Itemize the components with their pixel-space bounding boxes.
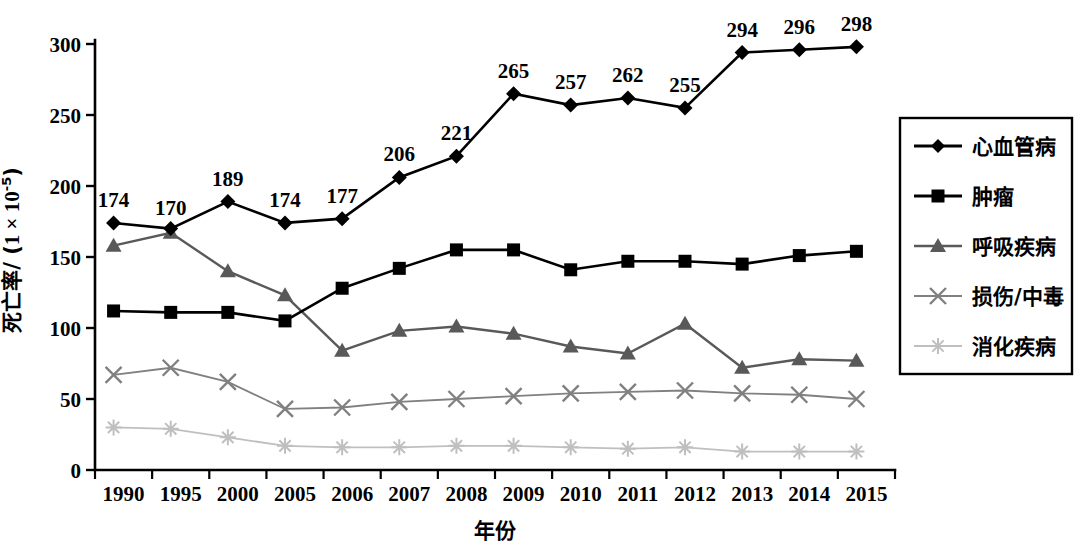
data-value-label: 296 bbox=[784, 15, 816, 39]
series-5 bbox=[106, 419, 865, 459]
data-point-marker bbox=[734, 444, 750, 460]
y-axis-title: 死亡率/ (1 × 10-5) bbox=[0, 150, 25, 350]
x-axis-tick-label: 2015 bbox=[845, 482, 887, 506]
data-point-marker bbox=[849, 39, 864, 54]
series-2 bbox=[107, 243, 863, 327]
x-axis-tick-label: 2011 bbox=[617, 482, 658, 506]
data-point-marker bbox=[848, 444, 864, 460]
data-point-marker bbox=[791, 444, 807, 460]
data-point-marker bbox=[277, 438, 293, 454]
data-point-marker bbox=[277, 287, 293, 301]
x-axis-tick-label: 2009 bbox=[503, 482, 545, 506]
data-point-marker bbox=[391, 439, 407, 455]
y-axis-tick-label: 150 bbox=[50, 246, 82, 270]
series-1 bbox=[106, 39, 864, 236]
line-chart-canvas: 0501001502002503001990199520002005200620… bbox=[0, 0, 1082, 552]
chart-figure: 0501001502002503001990199520002005200620… bbox=[0, 0, 1082, 552]
x-axis-tick-label: 2010 bbox=[560, 482, 602, 506]
data-point-marker bbox=[563, 98, 578, 113]
data-point-marker bbox=[448, 438, 464, 454]
x-axis-tick-label: 1995 bbox=[160, 482, 202, 506]
data-point-marker bbox=[164, 306, 177, 319]
data-point-marker bbox=[221, 306, 234, 319]
x-axis-tick-label: 2014 bbox=[788, 482, 831, 506]
data-point-marker bbox=[564, 263, 577, 276]
data-point-marker bbox=[334, 439, 350, 455]
x-axis-title: 年份 bbox=[474, 519, 517, 543]
y-axis-tick-label: 300 bbox=[50, 33, 82, 57]
y-axis-title-text: 死亡率 bbox=[0, 270, 24, 333]
y-axis-tick-label: 0 bbox=[71, 459, 82, 483]
data-point-marker bbox=[107, 304, 120, 317]
data-point-marker bbox=[792, 42, 807, 57]
data-point-marker bbox=[106, 419, 122, 435]
x-axis-tick-label: 2008 bbox=[445, 482, 487, 506]
x-axis-tick-label: 1990 bbox=[103, 482, 145, 506]
x-axis-tick-label: 2000 bbox=[217, 482, 259, 506]
data-point-marker bbox=[220, 263, 236, 277]
data-value-label: 177 bbox=[326, 184, 358, 208]
series-3 bbox=[106, 225, 865, 374]
data-value-label: 189 bbox=[212, 167, 244, 191]
data-point-marker bbox=[336, 282, 349, 295]
data-point-marker bbox=[507, 243, 520, 256]
data-point-marker bbox=[393, 262, 406, 275]
axis-lines bbox=[95, 40, 895, 470]
data-point-marker bbox=[106, 215, 121, 230]
y-axis-tick-label: 100 bbox=[50, 317, 82, 341]
data-point-marker bbox=[736, 258, 749, 271]
y-axis-title-close: ) bbox=[0, 167, 24, 177]
series-4 bbox=[106, 360, 865, 417]
legend-label-4: 损伤/中毒 bbox=[972, 285, 1064, 309]
data-value-label: 206 bbox=[384, 142, 416, 166]
data-point-marker bbox=[563, 439, 579, 455]
x-axis-tick-label: 2012 bbox=[674, 482, 716, 506]
data-point-marker bbox=[679, 255, 692, 268]
series-line bbox=[114, 368, 857, 409]
data-point-marker bbox=[677, 316, 693, 330]
data-value-label: 221 bbox=[441, 121, 473, 145]
data-point-marker bbox=[930, 338, 946, 354]
data-point-marker bbox=[620, 441, 636, 457]
y-axis-tick-label: 250 bbox=[50, 104, 82, 128]
y-axis-tick-label: 50 bbox=[60, 388, 81, 412]
data-point-marker bbox=[620, 90, 635, 105]
data-point-marker bbox=[278, 215, 293, 230]
data-point-marker bbox=[163, 421, 179, 437]
series-line bbox=[114, 233, 857, 368]
data-value-label: 174 bbox=[269, 188, 301, 212]
data-value-label: 255 bbox=[669, 73, 701, 97]
legend-label-3: 呼吸疾病 bbox=[972, 235, 1056, 259]
y-axis-tick-label: 200 bbox=[50, 175, 82, 199]
data-point-marker bbox=[450, 243, 463, 256]
data-value-label: 298 bbox=[841, 12, 873, 36]
legend-label-1: 心血管病 bbox=[972, 135, 1056, 159]
data-point-marker bbox=[932, 190, 945, 203]
x-axis-tick-label: 2005 bbox=[274, 482, 316, 506]
data-point-marker bbox=[506, 438, 522, 454]
data-point-marker bbox=[850, 245, 863, 258]
data-point-marker bbox=[448, 319, 464, 333]
x-axis-tick-label: 2007 bbox=[388, 482, 430, 506]
y-axis-unit-base: 1 × 10 bbox=[0, 191, 24, 245]
data-value-label: 257 bbox=[555, 70, 587, 94]
data-point-marker bbox=[793, 249, 806, 262]
data-point-marker bbox=[220, 429, 236, 445]
y-axis-title-sep: / ( bbox=[0, 245, 24, 270]
data-value-label: 170 bbox=[155, 196, 187, 220]
data-point-marker bbox=[220, 194, 235, 209]
data-point-marker bbox=[621, 255, 634, 268]
data-value-label: 265 bbox=[498, 59, 530, 83]
x-axis-tick-label: 2013 bbox=[731, 482, 773, 506]
data-point-marker bbox=[677, 439, 693, 455]
data-point-marker bbox=[220, 374, 236, 390]
data-value-label: 174 bbox=[98, 188, 130, 212]
legend-label-5: 消化疾病 bbox=[972, 335, 1056, 359]
y-axis-unit-exponent: -5 bbox=[0, 177, 14, 191]
data-point-marker bbox=[279, 314, 292, 327]
x-axis-tick-label: 2006 bbox=[331, 482, 373, 506]
data-value-label: 262 bbox=[612, 63, 644, 87]
legend-label-2: 肿瘤 bbox=[972, 185, 1014, 209]
data-value-label: 294 bbox=[726, 18, 758, 42]
